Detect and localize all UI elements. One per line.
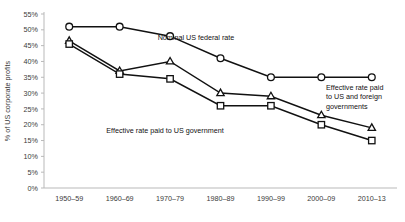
data-point-circle (318, 74, 325, 81)
data-point-square (116, 71, 122, 77)
y-axis-tick-label: 25% (24, 105, 39, 114)
data-point-square (369, 137, 375, 143)
data-point-circle (217, 55, 224, 62)
x-axis-tick-label: 2000–09 (307, 194, 335, 203)
chart-container: 0%5%10%15%20%25%30%35%40%45%50%55% 1950–… (0, 0, 405, 222)
y-axis-tick-label: 15% (24, 136, 39, 145)
y-axis-tick-label: 40% (24, 57, 39, 66)
y-axis-tick-label: 0% (28, 184, 39, 193)
data-point-square (268, 103, 274, 109)
x-axis-tick-label: 2010–13 (358, 194, 386, 203)
data-point-circle (66, 23, 73, 30)
y-axis-tick-label: 55% (24, 10, 39, 19)
data-point-square (217, 103, 223, 109)
x-axis-tick-label: 1980–89 (207, 194, 235, 203)
y-axis-title-text: % of US corporate profits (3, 60, 12, 141)
y-axis-tick-label: 35% (24, 73, 39, 82)
y-axis-tick-label: 20% (24, 120, 39, 129)
data-point-square (167, 76, 173, 82)
x-axis-tick-label: 1960–69 (106, 194, 134, 203)
annotation-usgov: Effective rate paid to US government (106, 126, 223, 135)
y-axis-tick-label: 30% (24, 89, 39, 98)
x-axis-tick-label: 1950–59 (55, 194, 83, 203)
x-axis-tick-label: 1990–99 (257, 194, 285, 203)
data-point-circle (268, 74, 275, 81)
x-axis-tick-label: 1970–79 (156, 194, 184, 203)
y-axis-tick-label: 45% (24, 41, 39, 50)
data-point-square (318, 122, 324, 128)
y-axis-tick-label: 50% (24, 25, 39, 34)
data-point-square (66, 41, 72, 47)
y-axis-tick-label: 10% (24, 152, 39, 161)
annotation-nominal: Nominal US federal rate (158, 33, 235, 42)
line-chart: 0%5%10%15%20%25%30%35%40%45%50%55% 1950–… (0, 0, 405, 222)
y-axis-title: % of US corporate profits (3, 60, 12, 141)
y-axis-tick-label: 5% (28, 168, 39, 177)
data-point-circle (368, 74, 375, 81)
data-point-circle (116, 23, 123, 30)
